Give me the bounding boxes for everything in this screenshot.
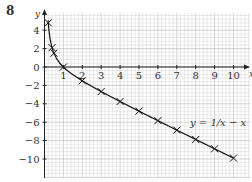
y-axis-label: y <box>34 9 41 19</box>
x-axis-label: x <box>249 69 252 79</box>
x-tick-label: 7 <box>174 70 180 81</box>
x-tick-label: 4 <box>117 70 123 81</box>
y-axis-arrow-icon <box>42 9 47 15</box>
x-tick-label: 10 <box>227 70 240 81</box>
curve-label: y = 1/x − x <box>189 117 246 128</box>
y-tick-label: −8 <box>25 135 40 146</box>
x-tick-label: 8 <box>193 70 199 81</box>
x-tick-label: 5 <box>136 70 142 81</box>
y-tick-label: −4 <box>25 98 40 109</box>
x-tick-label: 6 <box>155 70 161 81</box>
y-tick-label: −10 <box>18 154 39 165</box>
y-tick-label: 2 <box>33 43 39 54</box>
y-tick-label: 4 <box>33 25 39 36</box>
y-tick-label: −6 <box>25 117 40 128</box>
chart: 12345678910420−2−4−6−8−10xyy = 1/x − x <box>0 0 252 182</box>
y-tick-label: −2 <box>25 80 40 91</box>
x-tick-label: 1 <box>60 70 66 81</box>
x-tick-label: 3 <box>98 70 104 81</box>
x-tick-label: 9 <box>211 70 217 81</box>
y-tick-label: 0 <box>33 62 39 73</box>
